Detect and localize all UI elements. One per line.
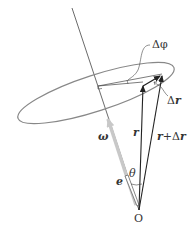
- e-label: e: [116, 175, 123, 188]
- radius-line-r: [98, 82, 143, 86]
- origin-label: O: [134, 212, 143, 225]
- theta-label: θ: [129, 167, 136, 180]
- r-plus-delta-r-label: r+Δr: [157, 130, 187, 143]
- rotation-diagram: Δφ ΔφΔr r r+Δr ω θ e O: [0, 0, 194, 233]
- delta-r-label: ΔφΔr: [167, 94, 182, 107]
- omega-label: ω: [98, 130, 109, 143]
- delta-phi-label: Δφ: [152, 38, 168, 51]
- r-label: r: [133, 126, 140, 139]
- delta-r-leader-arrowhead: [154, 82, 157, 85]
